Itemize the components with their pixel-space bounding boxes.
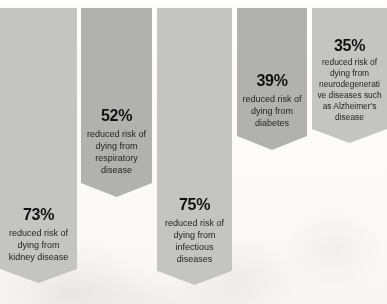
banner-description: reduced risk of dying from kidney diseas…	[5, 227, 72, 263]
banner-description: reduced risk of dying from neurodegenera…	[317, 57, 382, 123]
banner-percent: 35%	[334, 38, 365, 55]
banner-respiratory-disease: 52% reduced risk of dying from respirato…	[81, 8, 152, 197]
banner-percent: 75%	[179, 197, 210, 214]
banner-diabetes: 39% reduced risk of dying from diabetes	[237, 8, 307, 150]
banner-percent: 52%	[101, 108, 132, 125]
banner-kidney-disease: 73% reduced risk of dying from kidney di…	[0, 8, 77, 283]
banner-percent: 39%	[256, 73, 287, 90]
banner-neurodegenerative-diseases: 35% reduced risk of dying from neurodege…	[312, 8, 387, 143]
banner-description: reduced risk of dying from infectious di…	[162, 217, 227, 265]
banner-infectious-diseases: 75% reduced risk of dying from infectiou…	[157, 8, 232, 285]
infographic-root: 73% reduced risk of dying from kidney di…	[0, 0, 387, 304]
banner-description: reduced risk of dying from diabetes	[242, 93, 302, 129]
banner-description: reduced risk of dying from respiratory d…	[86, 128, 147, 176]
banner-percent: 73%	[23, 207, 54, 224]
top-edge-strip	[0, 0, 387, 8]
